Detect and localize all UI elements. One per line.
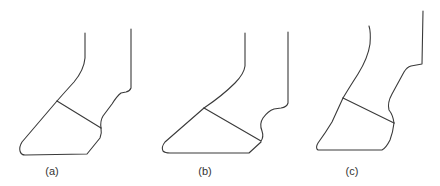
- coronary-band-line-a: [57, 101, 101, 128]
- front-pastern-line-c: [343, 26, 370, 98]
- panel-label-b: (b): [198, 166, 211, 177]
- hoof-diagram: [0, 0, 440, 186]
- hoof-wall-a: [20, 101, 102, 155]
- hoof-wall-c: [317, 98, 395, 150]
- front-pastern-line-a: [57, 33, 85, 101]
- back-pastern-line-c: [388, 11, 423, 123]
- coronary-band-line-c: [343, 98, 394, 123]
- hoof-drawing-a: [20, 29, 131, 155]
- back-pastern-line-b: [261, 32, 288, 141]
- coronary-band-line-b: [204, 108, 261, 141]
- back-pastern-line-a: [101, 29, 131, 128]
- front-pastern-line-b: [204, 33, 245, 108]
- panel-label-a: (a): [45, 166, 58, 177]
- panel-label-c: (c): [346, 166, 359, 177]
- hoof-wall-b: [162, 108, 261, 153]
- hoof-drawing-b: [162, 32, 288, 153]
- hoof-drawing-c: [317, 11, 424, 150]
